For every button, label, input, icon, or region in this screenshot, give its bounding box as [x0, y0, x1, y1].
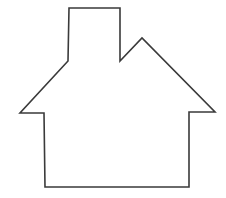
house-outline-shape — [20, 8, 215, 187]
house-diagram — [0, 0, 226, 198]
